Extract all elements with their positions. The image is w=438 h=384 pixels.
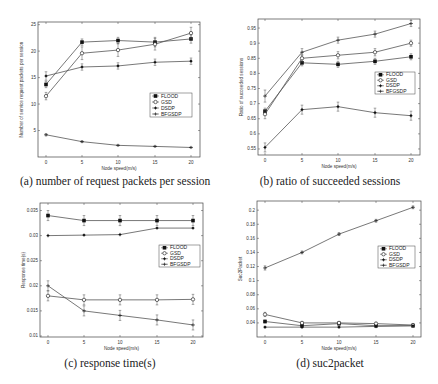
y-axis-label: Response time(s) bbox=[21, 252, 26, 288]
y-axis-label: Ratio of succeeded sessions bbox=[239, 57, 244, 116]
x-tick-label: 20 bbox=[188, 160, 194, 165]
x-tick-label: 20 bbox=[410, 340, 416, 345]
x-axis-label: Node speed(m/s) bbox=[321, 346, 357, 351]
series-gsd bbox=[263, 312, 414, 326]
y-tick-label: 0.85 bbox=[247, 56, 256, 61]
y-tick-label: 0.18 bbox=[246, 222, 255, 227]
marker-square-icon bbox=[409, 55, 413, 59]
marker-plus-icon bbox=[336, 39, 340, 42]
marker-plus-icon bbox=[118, 314, 122, 317]
legend: FLOODGSDDSDPBFGSDP bbox=[378, 245, 415, 268]
marker-square-icon bbox=[191, 219, 195, 223]
y-tick-label: 0.02 bbox=[29, 283, 38, 288]
marker-circle-icon bbox=[379, 79, 382, 82]
x-tick-label: 5 bbox=[81, 160, 84, 165]
marker-circle-icon bbox=[263, 313, 266, 316]
marker-plus-icon bbox=[409, 22, 413, 25]
caption-a: (a) number of request packets per sessio… bbox=[20, 175, 200, 187]
marker-square-icon bbox=[163, 246, 167, 250]
series-gsd bbox=[44, 27, 192, 100]
marker-circle-icon bbox=[155, 298, 158, 301]
plot-frame bbox=[257, 201, 421, 337]
marker-plus-icon bbox=[189, 146, 193, 149]
y-tick-label: 0.14 bbox=[246, 250, 255, 255]
x-tick-label: 0 bbox=[264, 158, 267, 163]
marker-square-icon bbox=[263, 320, 267, 324]
y-axis-label: Number of service request packets per se… bbox=[19, 41, 24, 137]
y-tick-label: 15 bbox=[31, 75, 37, 80]
caption-c: (c) response time(s) bbox=[20, 357, 200, 369]
y-tick-label: 20 bbox=[31, 49, 37, 54]
x-tick-label: 15 bbox=[154, 340, 160, 345]
y-tick-label: 0.6 bbox=[250, 131, 257, 136]
legend-entry: BFGSDP bbox=[170, 261, 191, 267]
chart-a: 51015202505101520Node speed(m/s)Number o… bbox=[19, 22, 200, 171]
x-tick-label: 5 bbox=[301, 158, 304, 163]
y-tick-label: 0.01 bbox=[29, 333, 38, 338]
y-tick-label: 0.8 bbox=[250, 71, 257, 76]
series-bfgsdp bbox=[44, 133, 193, 149]
marker-circle-icon bbox=[263, 113, 266, 116]
y-tick-label: 0.95 bbox=[247, 26, 256, 31]
y-tick-label: 0.03 bbox=[29, 233, 38, 238]
marker-plus-icon bbox=[153, 145, 157, 148]
caption-d: (d) suc2packet bbox=[240, 357, 420, 369]
marker-square-icon bbox=[155, 219, 159, 223]
series-bfgsdp bbox=[46, 281, 195, 330]
legend: FLOODGSDDSDPBFGSDP bbox=[159, 244, 200, 267]
marker-circle-icon bbox=[300, 57, 303, 60]
marker-circle-icon bbox=[191, 298, 194, 301]
caption-b: (b) ratio of succeeded sessions bbox=[240, 175, 420, 187]
marker-plus-icon bbox=[155, 318, 159, 321]
marker-square-icon bbox=[46, 214, 50, 218]
series-dsdp bbox=[44, 58, 193, 80]
marker-circle-icon bbox=[336, 54, 339, 57]
chart-d: 0.040.060.080.10.120.140.160.180.2051015… bbox=[238, 201, 421, 351]
x-axis-label: Node speed(m/s) bbox=[321, 164, 357, 169]
x-tick-label: 0 bbox=[47, 340, 50, 345]
marker-square-icon bbox=[82, 219, 86, 223]
marker-circle-icon bbox=[82, 298, 85, 301]
x-tick-label: 0 bbox=[45, 160, 48, 165]
y-tick-label: 0.16 bbox=[246, 236, 255, 241]
marker-plus-icon bbox=[44, 133, 48, 136]
series-dsdp bbox=[263, 102, 413, 152]
plot-frame bbox=[40, 203, 203, 337]
marker-circle-icon bbox=[409, 41, 412, 44]
y-tick-label: 25 bbox=[31, 22, 37, 27]
x-tick-label: 10 bbox=[335, 158, 341, 163]
series-gsd bbox=[46, 291, 194, 305]
marker-circle-icon bbox=[154, 100, 157, 103]
marker-plus-icon bbox=[411, 206, 415, 209]
x-tick-label: 10 bbox=[117, 340, 123, 345]
marker-square-icon bbox=[379, 73, 383, 77]
x-tick-label: 10 bbox=[336, 340, 342, 345]
y-tick-label: 10 bbox=[31, 102, 37, 107]
marker-plus-icon bbox=[116, 144, 120, 147]
x-axis-label: Node speed(m/s) bbox=[101, 166, 137, 171]
marker-circle-icon bbox=[80, 52, 83, 55]
y-tick-label: 5 bbox=[33, 128, 36, 133]
y-tick-label: 0.12 bbox=[246, 264, 255, 269]
y-tick-label: 0.1 bbox=[249, 278, 256, 283]
y-tick-label: 0.06 bbox=[246, 306, 255, 311]
marker-square-icon bbox=[80, 40, 84, 44]
marker-plus-icon bbox=[191, 323, 195, 326]
series-dsdp bbox=[46, 226, 195, 237]
chart-b: 0.550.60.650.70.750.80.850.90.9505101520… bbox=[239, 19, 420, 169]
marker-circle-icon bbox=[373, 51, 376, 54]
y-tick-label: 0.08 bbox=[246, 292, 255, 297]
y-tick-label: 0.04 bbox=[246, 320, 255, 325]
marker-square-icon bbox=[154, 94, 158, 98]
marker-square-icon bbox=[116, 39, 120, 43]
marker-circle-icon bbox=[300, 321, 303, 324]
y-tick-label: 0.015 bbox=[27, 308, 39, 313]
marker-circle-icon bbox=[163, 252, 166, 255]
y-tick-label: 0.55 bbox=[247, 146, 256, 151]
x-axis-label: Node speed(m/s) bbox=[104, 346, 140, 351]
marker-square-icon bbox=[382, 247, 386, 251]
x-tick-label: 5 bbox=[83, 340, 86, 345]
y-tick-label: 0.75 bbox=[247, 86, 256, 91]
y-tick-label: 0.9 bbox=[250, 41, 257, 46]
x-tick-label: 15 bbox=[152, 160, 158, 165]
